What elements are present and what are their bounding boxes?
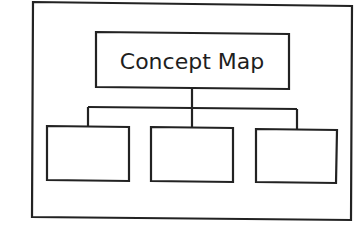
child-node-3 [256,129,337,183]
child-node-box [256,129,337,183]
root-node: Concept Map [96,32,289,89]
child-node-box [47,126,129,181]
diagram-canvas: Concept Map [0,0,363,229]
root-node-label: Concept Map [120,49,264,74]
child-node-box [151,127,233,182]
connectors [88,88,297,129]
concept-map-diagram: Concept Map [0,0,363,229]
child-node-1 [47,126,129,181]
child-node-2 [151,127,233,182]
